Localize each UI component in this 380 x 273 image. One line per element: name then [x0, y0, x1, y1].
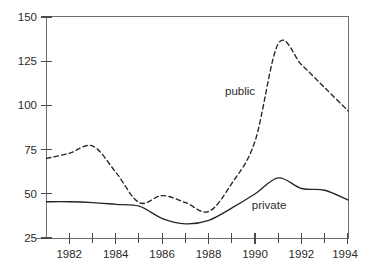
x-axis-tick-labels: 1982 1984 1986 1988 1990 1992 1994: [56, 248, 358, 260]
series-annotations: public private: [225, 85, 286, 211]
y-tick-label-100: 100: [18, 99, 37, 111]
x-tick-label-1994: 1994: [332, 248, 358, 260]
figure-container: 150 125 100 75 50 25 1982 1984: [0, 0, 380, 273]
y-tick-label-150: 150: [18, 11, 37, 23]
y-tick-label-125: 125: [18, 55, 37, 67]
x-tick-label-1988: 1988: [196, 248, 222, 260]
line-chart: 150 125 100 75 50 25 1982 1984: [0, 0, 380, 273]
x-tick-label-1990: 1990: [242, 248, 268, 260]
x-tick-label-1982: 1982: [56, 248, 82, 260]
x-tick-label-1992: 1992: [289, 248, 315, 260]
y-tick-label-25: 25: [24, 232, 37, 244]
x-tick-label-1986: 1986: [149, 248, 175, 260]
series-label-public: public: [225, 85, 255, 97]
y-tick-label-50: 50: [24, 188, 37, 200]
y-tick-label-75: 75: [24, 144, 37, 156]
series-line-public: [47, 40, 348, 212]
series-group: [47, 40, 348, 224]
x-tick-label-1984: 1984: [103, 248, 129, 260]
series-line-private: [47, 178, 348, 224]
y-axis-tick-labels: 150 125 100 75 50 25: [18, 11, 37, 244]
series-label-private: private: [252, 199, 287, 211]
